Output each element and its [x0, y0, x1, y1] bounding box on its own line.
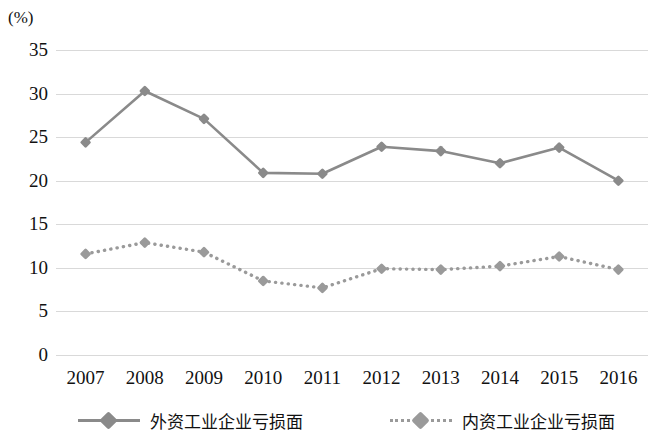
legend-marker-icon: [411, 411, 429, 429]
legend-marker-icon: [99, 411, 117, 429]
data-point-marker: [553, 142, 565, 154]
data-point-marker: [553, 251, 565, 263]
data-point-marker: [613, 264, 625, 276]
data-point-marker: [139, 237, 151, 249]
data-point-marker: [376, 263, 388, 275]
legend-label: 外资工业企业亏损面: [150, 408, 303, 433]
data-point-marker: [80, 248, 92, 260]
data-point-marker: [494, 157, 506, 169]
data-point-marker: [376, 141, 388, 153]
data-point-marker: [198, 246, 210, 258]
legend-key-icon: [78, 412, 140, 428]
series-layer: [0, 0, 650, 439]
data-series: [80, 85, 624, 186]
legend-key-icon: [390, 412, 452, 428]
series-line: [86, 91, 619, 181]
series-line: [86, 243, 619, 288]
legend-label: 内资工业企业亏损面: [462, 408, 615, 433]
chart-legend: 外资工业企业亏损面内资工业企业亏损面: [0, 404, 650, 439]
chart-container: (%) 35302520151050 200720082009201020112…: [0, 0, 650, 439]
data-point-marker: [317, 282, 329, 294]
data-point-marker: [435, 145, 447, 157]
legend-item[interactable]: 外资工业企业亏损面: [78, 404, 303, 436]
data-point-marker: [257, 275, 269, 287]
data-point-marker: [613, 175, 625, 187]
data-point-marker: [317, 168, 329, 180]
data-point-marker: [494, 260, 506, 272]
legend-item[interactable]: 内资工业企业亏损面: [390, 404, 615, 436]
data-series: [80, 237, 624, 294]
data-point-marker: [435, 264, 447, 276]
